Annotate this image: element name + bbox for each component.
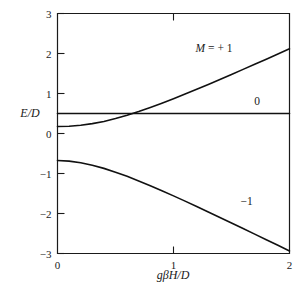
y-tick-label: −2 bbox=[40, 208, 52, 220]
x-tick-label: 2 bbox=[287, 259, 293, 271]
curve-label: M = + 1 bbox=[195, 42, 233, 54]
y-tick-label: 1 bbox=[46, 88, 52, 100]
data-curves bbox=[58, 49, 290, 251]
y-tick-label: 2 bbox=[46, 48, 52, 60]
curve-m-1 bbox=[58, 49, 290, 127]
y-axis-label: E/D bbox=[19, 106, 40, 120]
y-tick-label: −1 bbox=[40, 168, 52, 180]
x-axis-label: gβH/D bbox=[157, 268, 190, 282]
y-tick-label: −3 bbox=[40, 248, 52, 260]
curve-1 bbox=[58, 161, 290, 251]
y-tick-label: 0 bbox=[46, 128, 52, 140]
curve-label: −1 bbox=[240, 195, 252, 207]
chart-figure: 3210−1−2−3 012 M = + 10−1 E/D gβH/D bbox=[0, 0, 306, 289]
y-axis-ticks bbox=[58, 14, 65, 254]
energy-level-diagram: 3210−1−2−3 012 M = + 10−1 E/D gβH/D bbox=[0, 0, 306, 289]
y-axis-tick-labels: 3210−1−2−3 bbox=[40, 8, 52, 260]
curve-label: 0 bbox=[254, 95, 260, 107]
y-tick-label: 3 bbox=[46, 8, 52, 20]
plot-frame bbox=[58, 14, 290, 254]
x-tick-label: 0 bbox=[55, 259, 61, 271]
